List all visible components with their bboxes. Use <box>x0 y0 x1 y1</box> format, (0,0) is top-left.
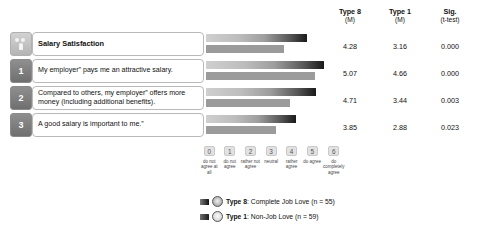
column-header-type1-sub: (M) <box>379 16 421 24</box>
bar-type8 <box>206 34 307 42</box>
scale-item-6: 6 do completely agree <box>322 146 345 176</box>
row-label-box: Compared to others, my employer” offers … <box>32 86 204 110</box>
chart-figure: Type 8 (M) Type 1 (M) Sig. (t-test) Sala… <box>0 0 479 233</box>
people-icon <box>15 37 28 51</box>
legend-bar-icon <box>200 199 209 205</box>
scale-label: rather agree <box>281 159 302 171</box>
value-type8: 4.28 <box>329 42 371 51</box>
row-label-box: A good salary is important to me.” <box>32 113 204 137</box>
column-header-type1-title: Type 1 <box>379 8 421 16</box>
scale-item-3: 3 neutral <box>261 146 282 176</box>
scale-label: do not agree at all <box>199 159 220 177</box>
column-header-sig-title: Sig. <box>428 8 472 16</box>
row-label: My employer” pays me an attractive salar… <box>38 66 173 75</box>
scale-item-1: 1 do not agree <box>220 146 241 176</box>
bar-type8 <box>206 115 296 123</box>
value-sig: 0.023 <box>428 123 472 132</box>
value-type1: 3.16 <box>379 42 421 51</box>
bar-type8 <box>206 88 316 96</box>
row-label: Compared to others, my employer” offers … <box>38 89 198 108</box>
value-sig: 0.000 <box>428 42 472 51</box>
scale-label: neutral <box>261 159 282 165</box>
bar-type8 <box>206 61 324 69</box>
scale-value: 3 <box>266 146 277 156</box>
value-sig: 0.000 <box>428 69 472 78</box>
scale-label: do agree <box>302 159 323 165</box>
column-header-type1: Type 1 (M) <box>379 8 421 24</box>
legend-name: Type 8 <box>226 198 247 205</box>
value-type1: 2.88 <box>379 123 421 132</box>
legend-entry-type1: Type 1: Non-Job Love (n = 59) <box>200 211 319 222</box>
value-type8: 3.85 <box>329 123 371 132</box>
value-type1: 3.44 <box>379 96 421 105</box>
row-badge: 2 <box>10 86 32 110</box>
scale-item-0: 0 do not agree at all <box>199 146 220 176</box>
legend-desc: : Complete Job Love (n = 55) <box>247 198 335 205</box>
column-header-type8-title: Type 8 <box>329 8 371 16</box>
legend-bar-icon <box>200 214 209 220</box>
row-label: A good salary is important to me.” <box>38 120 144 129</box>
scale-value: 6 <box>328 146 339 156</box>
likert-scale: 0 do not agree at all 1 do not agree 2 r… <box>199 146 345 176</box>
row-label-box: Salary Satisfaction <box>32 32 204 56</box>
legend-label: Type 1: Non-Job Love (n = 59) <box>226 213 319 220</box>
scale-value: 4 <box>286 146 297 156</box>
scale-value: 1 <box>224 146 235 156</box>
row-badge: 3 <box>10 113 32 137</box>
bar-type1 <box>206 45 284 53</box>
bar-type1 <box>206 99 290 107</box>
scale-label: do completely agree <box>322 159 345 177</box>
legend-desc: : Non-Job Love (n = 59) <box>247 213 319 220</box>
column-header-type8-sub: (M) <box>329 16 371 24</box>
column-header-type8: Type 8 (M) <box>329 8 371 24</box>
column-header-sig-sub: (t-test) <box>428 16 472 24</box>
scale-item-5: 5 do agree <box>302 146 323 176</box>
scale-item-4: 4 rather agree <box>281 146 302 176</box>
scale-item-2: 2 rather not agree <box>240 146 261 176</box>
bar-type1 <box>206 72 315 80</box>
value-type1: 4.66 <box>379 69 421 78</box>
scale-value: 0 <box>204 146 215 156</box>
value-type8: 4.71 <box>329 96 371 105</box>
bar-type1 <box>206 126 276 134</box>
row-label-box: My employer” pays me an attractive salar… <box>32 59 204 83</box>
legend-marker-icon <box>212 196 223 207</box>
row-badge-icon <box>10 32 32 56</box>
legend-label: Type 8: Complete Job Love (n = 55) <box>226 198 335 205</box>
scale-value: 2 <box>245 146 256 156</box>
scale-label: do not agree <box>220 159 241 171</box>
value-sig: 0.003 <box>428 96 472 105</box>
value-type8: 5.07 <box>329 69 371 78</box>
column-header-sig: Sig. (t-test) <box>428 8 472 24</box>
legend-marker-icon <box>212 211 223 222</box>
scale-value: 5 <box>307 146 318 156</box>
legend-name: Type 1 <box>226 213 247 220</box>
legend-entry-type8: Type 8: Complete Job Love (n = 55) <box>200 196 335 207</box>
row-badge: 1 <box>10 59 32 83</box>
scale-label: rather not agree <box>240 159 261 171</box>
row-label: Salary Satisfaction <box>38 39 104 49</box>
